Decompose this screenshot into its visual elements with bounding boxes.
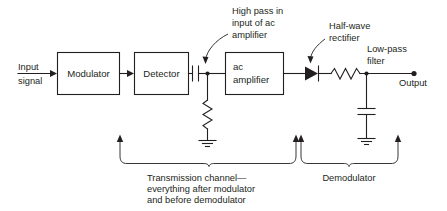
annotation-high-pass-line1: High pass in [232,6,283,16]
annotation-high-pass-line2: input of ac [232,18,275,28]
leader-half-wave-rectifier [308,39,326,64]
block-diagram-figure: Input signal Modulator Detector ac ampli… [0,0,447,211]
output-terminal-dot [411,71,416,76]
diagram-canvas: Input signal Modulator Detector ac ampli… [0,0,447,211]
input-signal-label-line2: signal [18,76,42,86]
bracket-transmission-label-line1: Transmission channel— [147,173,247,183]
wire-resistor-to-output [360,71,417,76]
wire-capacitor-to-amplifier [199,71,226,75]
bracket-transmission-label-line2: everything after modulator [147,184,255,194]
block-ac-amplifier-label-line2: amplifier [233,74,270,85]
shunt-capacitor-icon [358,74,375,139]
bracket-transmission-label-line3: and before demodulator [147,195,246,205]
output-label: Output [399,78,427,88]
block-detector-label: Detector [143,68,180,79]
annotation-low-pass-line1: Low-pass [367,44,407,54]
series-resistor-icon [331,69,360,80]
diode-icon [305,66,319,81]
block-modulator-label: Modulator [67,68,110,79]
shunt-resistor-icon [203,74,212,141]
annotation-half-wave-line1: Half-wave [329,21,370,31]
bracket-demodulator [298,135,401,167]
series-capacitor-icon [193,66,199,81]
ground-right-icon [358,139,375,145]
bracket-demodulator-label: Demodulator [322,173,375,183]
leader-high-pass [203,34,229,64]
block-ac-amplifier-label-line1: ac [233,61,243,72]
annotation-half-wave-line2: rectifier [329,33,359,43]
annotation-high-pass-line3: amplifier [232,30,267,40]
annotation-low-pass-line2: filter [367,56,385,66]
input-signal-label-line1: Input [18,62,39,72]
wire-modulator-to-detector [120,70,135,77]
ground-left-icon [199,141,216,147]
